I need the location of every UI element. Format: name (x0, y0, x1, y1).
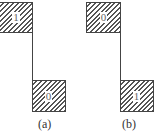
top-hatched-box: 0 (86, 2, 121, 33)
figure-caption: (b) (122, 117, 136, 132)
box-label: 1 (133, 91, 141, 102)
box-label: 0 (100, 12, 108, 23)
figure-b: 0 1 (b) (0, 0, 160, 139)
bottom-hatched-box: 1 (120, 80, 154, 112)
